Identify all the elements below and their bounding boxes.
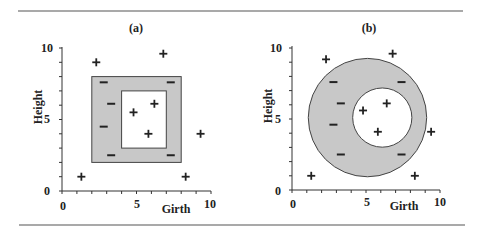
- x-tick-5: 5: [364, 195, 370, 209]
- x-tick-10: 10: [434, 195, 446, 209]
- plus-marker: [427, 128, 435, 136]
- x-axis-label: Girth: [390, 199, 419, 213]
- x-tick-5: 5: [134, 197, 140, 211]
- y-axis-label: Height: [31, 90, 45, 125]
- y-tick-5: 5: [275, 112, 281, 126]
- inner-square-region: [122, 91, 167, 148]
- x-axis-label: Girth: [162, 202, 191, 216]
- figure-canvas: (a) 10 5 0 0 5 10 Girth Height (b) 10 5 …: [0, 0, 483, 233]
- x-tick-0: 0: [60, 199, 66, 213]
- y-tick-10: 10: [41, 41, 53, 55]
- plus-marker: [411, 172, 419, 180]
- y-tick-10: 10: [270, 41, 282, 55]
- x-tick-0: 0: [290, 197, 296, 211]
- x-tick-10: 10: [204, 197, 216, 211]
- plus-marker: [389, 50, 397, 58]
- plus-marker: [159, 50, 167, 58]
- y-tick-0: 0: [44, 184, 50, 198]
- panel-b-label: (b): [362, 21, 377, 35]
- plus-marker: [197, 130, 205, 138]
- plus-marker: [307, 172, 315, 180]
- panel-a-label: (a): [129, 21, 143, 35]
- plus-marker: [92, 58, 100, 66]
- y-axis-label: Height: [261, 89, 275, 124]
- inner-circle-region: [353, 88, 412, 147]
- plus-marker: [182, 173, 190, 181]
- y-tick-0: 0: [275, 184, 281, 198]
- panel-a: (a) 10 5 0 0 5 10 Girth Height: [31, 21, 216, 216]
- plus-marker: [322, 55, 330, 63]
- plus-marker: [77, 173, 85, 181]
- panel-b: (b) 10 5 0 0 5 10 Girth Height: [261, 21, 446, 213]
